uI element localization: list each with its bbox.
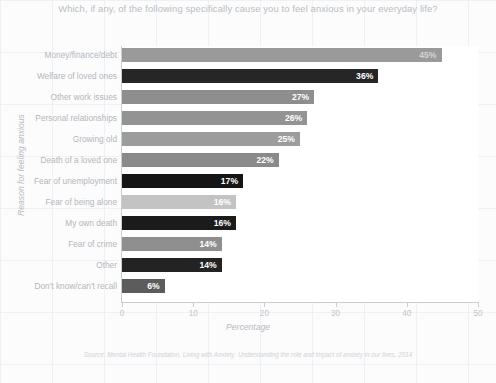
bar-value-label: 45%: [419, 50, 436, 60]
x-axis-tick-label: 30: [331, 309, 340, 318]
anxiety-reasons-bar-chart: Which, if any, of the following specific…: [0, 0, 496, 383]
bar: [122, 90, 314, 104]
bar-value-label: 14%: [199, 239, 216, 249]
category-label: Welfare of loved ones: [0, 69, 117, 83]
category-label: Other: [0, 258, 117, 272]
source-note: Source: Mental Health Foundation, Living…: [0, 351, 496, 358]
bar-value-label: 36%: [356, 71, 373, 81]
bar-value-label: 25%: [278, 134, 295, 144]
bar: [122, 111, 307, 125]
x-axis-tick-label: 10: [189, 309, 198, 318]
bar-value-label: 16%: [214, 197, 231, 207]
bar-row: 22%: [122, 153, 279, 167]
bar-row: 45%: [122, 48, 442, 62]
x-axis-tick: [336, 302, 337, 307]
x-axis-tick-label: 20: [260, 309, 269, 318]
bar: [122, 153, 279, 167]
x-axis-tick: [478, 302, 479, 307]
x-axis-tick: [407, 302, 408, 307]
category-label: Money/finance/debt: [0, 48, 117, 62]
x-axis-tick: [264, 302, 265, 307]
bar-row: 16%: [122, 195, 236, 209]
bar-row: 26%: [122, 111, 307, 125]
category-label: Fear of crime: [0, 237, 117, 251]
bar: [122, 69, 378, 83]
bar-row: 14%: [122, 258, 222, 272]
bar-value-label: 22%: [256, 155, 273, 165]
bar-row: 25%: [122, 132, 300, 146]
y-axis-title: Reason for feeling anxious: [16, 100, 26, 230]
bar: [122, 132, 300, 146]
x-axis-title: Percentage: [0, 322, 496, 332]
bar-row: 17%: [122, 174, 243, 188]
x-axis-spine: [121, 302, 479, 303]
x-axis-tick-label: 0: [120, 309, 125, 318]
x-axis-tick: [122, 302, 123, 307]
bar-value-label: 26%: [285, 113, 302, 123]
bar-value-label: 27%: [292, 92, 309, 102]
bar-row: 27%: [122, 90, 314, 104]
category-label: Don't know/can't recall: [0, 279, 117, 293]
bar-row: 16%: [122, 216, 236, 230]
bar-row: 6%: [122, 279, 165, 293]
x-axis-tick-label: 50: [473, 309, 482, 318]
chart-title: Which, if any, of the following specific…: [0, 3, 496, 14]
bar-value-label: 17%: [221, 176, 238, 186]
bar-value-label: 16%: [214, 218, 231, 228]
bar-row: 14%: [122, 237, 222, 251]
bar-row: 36%: [122, 69, 378, 83]
bar-value-label: 6%: [147, 281, 159, 291]
x-axis-tick: [193, 302, 194, 307]
bar-value-label: 14%: [199, 260, 216, 270]
bar: [122, 48, 442, 62]
x-axis-tick-label: 40: [402, 309, 411, 318]
